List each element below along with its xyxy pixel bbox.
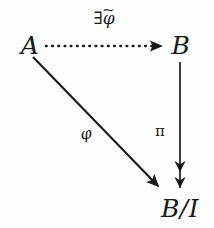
node-b: B <box>172 33 191 58</box>
arrow-label-pi: π <box>155 124 165 139</box>
phi-tilde-glyph: ~φ <box>103 10 115 27</box>
arrow-label-phi: φ <box>79 125 93 143</box>
node-a: A <box>21 33 40 58</box>
arrow-b-to-bi <box>174 62 185 188</box>
tilde-accent-glyph: ~ <box>102 3 115 16</box>
node-b-mod-i: B/I <box>161 196 199 221</box>
arrow-a-to-bi <box>33 57 158 186</box>
arrow-label-exists-phi-tilde: ∃~φ <box>93 10 114 27</box>
arrow-a-to-bi-shaft <box>33 57 158 186</box>
arrow-a-to-b <box>46 41 163 52</box>
commutative-diagram: A B B/I ∃~φ π φ <box>0 0 214 228</box>
